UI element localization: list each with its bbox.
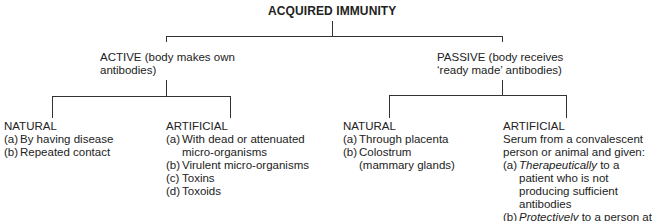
passive-natural-list: (a)Through placenta (b)Colostrum (mammar… [343, 133, 463, 172]
connector-passive-artificial-drop [566, 95, 567, 118]
connector-active-natural-drop [52, 96, 53, 118]
connector-top-horizontal [166, 36, 503, 37]
diagram-title: ACQUIRED IMMUNITY [268, 4, 396, 18]
passive-natural-heading: NATURAL [343, 120, 463, 133]
connector-passive-down [502, 80, 503, 95]
connector-passive-drop [502, 36, 503, 42]
passive-artificial-list: (a)Therapeutically to a patient who is n… [503, 159, 653, 221]
connector-passive-natural-drop [389, 95, 390, 118]
list-item: (b)Colostrum (mammary glands) [343, 146, 463, 172]
active-natural-node: NATURAL (a)By having disease (b)Repeated… [4, 120, 154, 159]
list-item: (b)Protectively to a person at risk [503, 211, 653, 221]
list-item: (b)Virulent micro-organisms [166, 159, 316, 172]
connector-active-artificial-drop [230, 96, 231, 118]
connector-passive-horizontal [389, 95, 567, 96]
passive-artificial-heading: ARTIFICIAL [503, 120, 653, 133]
list-item: (a)With dead or attenuated micro-organis… [166, 133, 316, 159]
list-item: (c)Toxins [166, 172, 316, 185]
list-item: (a)Therapeutically to a patient who is n… [503, 159, 653, 211]
list-item: (b)Repeated contact [4, 146, 154, 159]
active-label-line1: ACTIVE (body makes own [100, 51, 240, 64]
active-artificial-list: (a)With dead or attenuated micro-organis… [166, 133, 316, 198]
connector-title-down [332, 21, 333, 36]
connector-active-drop [166, 36, 167, 42]
active-artificial-heading: ARTIFICIAL [166, 120, 316, 133]
passive-artificial-node: ARTIFICIAL Serum from a convalescent per… [503, 120, 653, 221]
passive-label-line1: PASSIVE (body receives [437, 51, 587, 64]
active-natural-list: (a)By having disease (b)Repeated contact [4, 133, 154, 159]
list-item: (d)Toxoids [166, 185, 316, 198]
list-item: (a)By having disease [4, 133, 154, 146]
passive-artificial-intro: Serum from a convalescent person or anim… [503, 133, 653, 159]
connector-active-down [166, 80, 167, 96]
active-label-line2: antibodies) [100, 64, 240, 77]
passive-node: PASSIVE (body receives ‘ready made’ anti… [437, 51, 587, 77]
active-natural-heading: NATURAL [4, 120, 154, 133]
connector-active-horizontal [52, 96, 231, 97]
passive-natural-node: NATURAL (a)Through placenta (b)Colostrum… [343, 120, 463, 172]
active-artificial-node: ARTIFICIAL (a)With dead or attenuated mi… [166, 120, 316, 198]
passive-label-line2: ‘ready made’ antibodies) [437, 64, 587, 77]
list-item: (a)Through placenta [343, 133, 463, 146]
active-node: ACTIVE (body makes own antibodies) [100, 51, 240, 77]
